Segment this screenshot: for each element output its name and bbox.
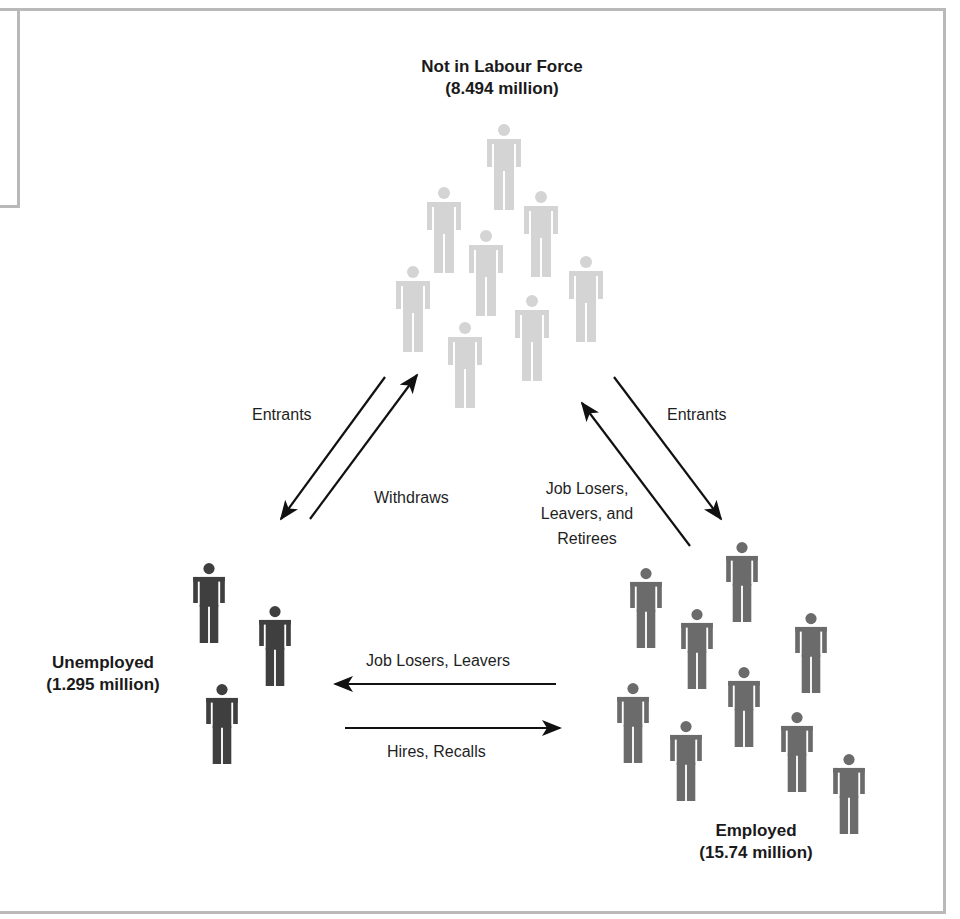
person-icon [569, 256, 603, 342]
person-icon [427, 187, 461, 273]
person-icon [670, 721, 702, 801]
person-icon [206, 684, 238, 764]
group-name: Unemployed [28, 652, 178, 674]
person-icon [469, 230, 503, 316]
person-icon [259, 606, 291, 686]
unemployed-label: Unemployed (1.295 million) [28, 652, 178, 696]
group-name: Employed [686, 820, 826, 842]
flow-label-line: Leavers, and [522, 501, 652, 526]
person-icon [524, 191, 558, 277]
employed-label: Employed (15.74 million) [686, 820, 826, 864]
person-icon [681, 609, 713, 689]
not-in-labour-force-label: Not in Labour Force (8.494 million) [380, 56, 624, 100]
employed-figures [617, 542, 865, 834]
flow-label-hires-recalls: Hires, Recalls [387, 741, 486, 763]
flow-label-withdraws: Withdraws [374, 487, 449, 509]
person-icon [193, 563, 225, 643]
person-icon [396, 266, 430, 352]
group-name: Not in Labour Force [380, 56, 624, 78]
group-value: (8.494 million) [380, 78, 624, 100]
flow-label-entrants-right: Entrants [667, 404, 727, 426]
person-icon [795, 613, 827, 693]
person-icon [515, 295, 549, 381]
flow-label-job-losers-leavers-retirees: Job Losers, Leavers, and Retirees [522, 476, 652, 551]
group-value: (15.74 million) [686, 842, 826, 864]
group-value: (1.295 million) [28, 674, 178, 696]
person-icon [630, 568, 662, 648]
person-icon [726, 542, 758, 622]
person-icon [448, 322, 482, 408]
flow-label-job-losers-leavers: Job Losers, Leavers [366, 650, 510, 672]
person-icon [833, 754, 865, 834]
flow-label-entrants-left: Entrants [252, 404, 312, 426]
person-icon [728, 667, 760, 747]
not-in-labour-force-figures [396, 124, 603, 408]
flow-label-line: Job Losers, [522, 476, 652, 501]
person-icon [781, 712, 813, 792]
flow-label-line: Retirees [522, 526, 652, 551]
arrow-nilf-to-unemployed [281, 377, 385, 519]
diagram-canvas [0, 0, 960, 919]
person-icon [487, 124, 521, 210]
flow-arrows [281, 375, 721, 728]
person-icon [617, 683, 649, 763]
unemployed-figures [193, 563, 291, 764]
